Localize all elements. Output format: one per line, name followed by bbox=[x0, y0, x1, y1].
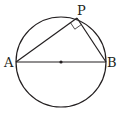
label-b: B bbox=[107, 55, 117, 70]
label-a: A bbox=[3, 55, 14, 70]
chord-pb bbox=[77, 18, 106, 62]
label-p: P bbox=[77, 3, 86, 18]
right-angle-mark bbox=[71, 23, 82, 30]
chord-ap bbox=[16, 18, 77, 62]
center-point bbox=[59, 60, 62, 63]
geometry-diagram: A B P bbox=[0, 0, 121, 114]
